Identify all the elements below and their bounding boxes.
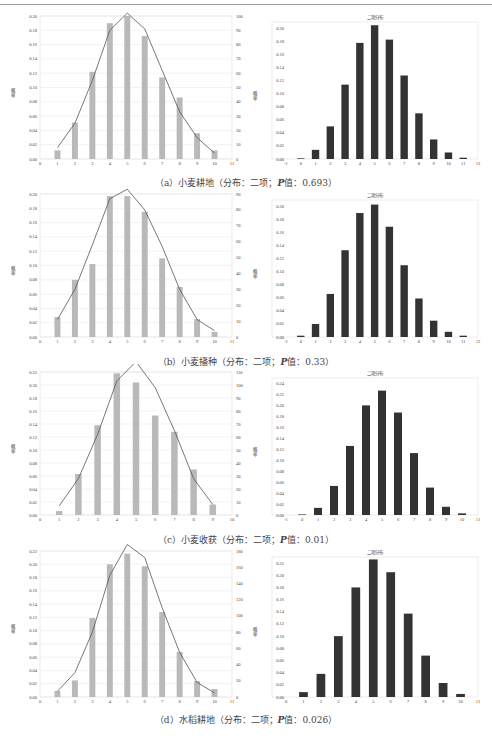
svg-text:4: 4 xyxy=(109,339,112,344)
svg-text:0.10: 0.10 xyxy=(276,458,285,463)
svg-text:0.08: 0.08 xyxy=(29,461,38,466)
svg-text:90: 90 xyxy=(236,396,241,401)
svg-text:5: 5 xyxy=(135,517,138,522)
svg-text:0.18: 0.18 xyxy=(29,206,38,211)
svg-text:0.16: 0.16 xyxy=(29,220,38,225)
svg-text:1: 1 xyxy=(56,699,58,704)
svg-text:3: 3 xyxy=(96,517,99,522)
svg-text:0.06: 0.06 xyxy=(29,114,38,119)
svg-text:0.04: 0.04 xyxy=(276,130,285,135)
svg-text:0: 0 xyxy=(39,517,42,522)
svg-text:0.20: 0.20 xyxy=(276,26,285,31)
svg-text:概率: 概率 xyxy=(10,623,15,635)
bar xyxy=(369,559,378,697)
bar xyxy=(386,40,393,159)
svg-text:概率: 概率 xyxy=(252,446,257,458)
svg-text:8: 8 xyxy=(429,517,432,522)
svg-text:11: 11 xyxy=(476,699,480,704)
svg-text:40: 40 xyxy=(236,662,241,667)
svg-text:0.06: 0.06 xyxy=(276,480,285,485)
svg-text:0.06: 0.06 xyxy=(276,117,285,122)
svg-text:11: 11 xyxy=(461,161,465,166)
svg-text:0.14: 0.14 xyxy=(276,243,285,248)
svg-text:0.04: 0.04 xyxy=(29,487,38,492)
svg-text:9: 9 xyxy=(196,699,199,704)
svg-text:0.04: 0.04 xyxy=(29,306,38,311)
svg-text:5: 5 xyxy=(381,517,384,522)
svg-text:80: 80 xyxy=(236,409,241,414)
svg-text:0: 0 xyxy=(300,161,303,166)
svg-text:0: 0 xyxy=(236,335,239,340)
bar xyxy=(212,689,218,697)
chart-a-binomial: 二项分布0.000.020.040.060.080.100.120.140.16… xyxy=(248,8,488,173)
svg-text:2: 2 xyxy=(329,161,331,166)
svg-text:10: 10 xyxy=(212,699,217,704)
svg-text:2: 2 xyxy=(74,339,76,344)
svg-text:10: 10 xyxy=(460,517,465,522)
chart-c-observed: 0.000.020.040.060.080.100.120.140.160.18… xyxy=(4,364,244,529)
svg-text:频数: 频数 xyxy=(244,623,245,635)
svg-text:11: 11 xyxy=(461,339,465,344)
bar xyxy=(378,391,386,515)
svg-text:3: 3 xyxy=(337,699,340,704)
svg-text:9: 9 xyxy=(196,339,199,344)
svg-text:0.06: 0.06 xyxy=(29,655,38,660)
svg-text:8: 8 xyxy=(179,339,182,344)
chart-c-binomial: 二项分布0.000.020.040.060.080.100.120.140.16… xyxy=(248,364,488,529)
svg-text:0.08: 0.08 xyxy=(276,282,285,287)
svg-text:3: 3 xyxy=(91,699,94,704)
svg-text:12: 12 xyxy=(476,339,481,344)
svg-text:0.08: 0.08 xyxy=(276,646,285,651)
svg-text:频数: 频数 xyxy=(244,443,245,455)
bar xyxy=(460,158,467,159)
svg-text:0.20: 0.20 xyxy=(276,204,285,209)
svg-text:0.18: 0.18 xyxy=(29,28,38,33)
svg-text:0.12: 0.12 xyxy=(29,249,37,254)
svg-text:10: 10 xyxy=(212,161,217,166)
bar xyxy=(356,213,363,337)
svg-text:-1: -1 xyxy=(284,161,288,166)
bar xyxy=(124,196,130,337)
bar xyxy=(346,446,354,515)
bar xyxy=(415,299,422,337)
bar xyxy=(107,564,113,697)
svg-text:2: 2 xyxy=(77,517,79,522)
bar xyxy=(89,618,95,697)
svg-text:0.14: 0.14 xyxy=(29,602,38,607)
svg-text:0.18: 0.18 xyxy=(276,414,285,419)
svg-text:4: 4 xyxy=(359,161,362,166)
svg-text:0.20: 0.20 xyxy=(276,573,285,578)
svg-text:0.16: 0.16 xyxy=(276,52,285,57)
svg-text:2: 2 xyxy=(74,699,76,704)
bar xyxy=(114,373,121,515)
bar xyxy=(124,16,130,159)
svg-text:5: 5 xyxy=(372,699,375,704)
bar xyxy=(72,123,78,159)
bar xyxy=(327,126,334,159)
svg-text:0.22: 0.22 xyxy=(29,370,37,375)
bar xyxy=(107,23,113,159)
bar xyxy=(362,405,370,515)
bar xyxy=(317,674,326,697)
svg-text:7: 7 xyxy=(173,517,176,522)
svg-text:6: 6 xyxy=(154,517,157,522)
bar xyxy=(386,227,393,337)
svg-text:7: 7 xyxy=(161,339,164,344)
svg-text:0.06: 0.06 xyxy=(276,295,285,300)
svg-text:0.08: 0.08 xyxy=(29,277,38,282)
svg-text:180: 180 xyxy=(236,549,244,554)
svg-text:0: 0 xyxy=(39,161,42,166)
svg-text:4: 4 xyxy=(355,699,358,704)
svg-text:0.12: 0.12 xyxy=(29,71,37,76)
svg-text:8: 8 xyxy=(179,161,182,166)
bar xyxy=(458,513,466,515)
svg-text:0.04: 0.04 xyxy=(276,491,285,496)
bar xyxy=(460,336,467,337)
svg-text:7: 7 xyxy=(413,517,416,522)
chart-d-observed: 0.000.020.040.060.080.100.120.140.160.18… xyxy=(4,543,244,711)
svg-text:0.00: 0.00 xyxy=(29,695,38,700)
svg-text:7: 7 xyxy=(161,161,164,166)
svg-text:0: 0 xyxy=(285,699,288,704)
svg-text:80: 80 xyxy=(236,207,241,212)
svg-text:0: 0 xyxy=(39,339,42,344)
